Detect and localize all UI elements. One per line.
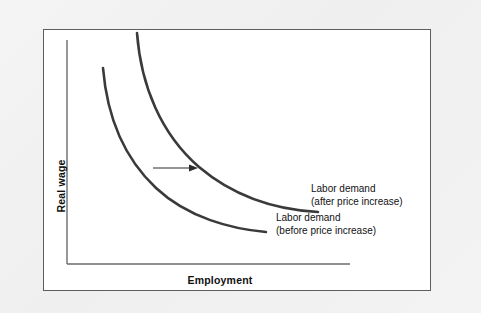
x-axis-title: Employment [187, 274, 252, 286]
curve-label-before-line1: Labor demand [276, 212, 341, 223]
y-axis-title: Real wage [55, 159, 67, 212]
figure-frame: Real wage Employment Labor demand (after… [43, 29, 431, 291]
shift-arrow-icon [153, 165, 198, 172]
y-axis-title-wrapper: Real wage [50, 126, 72, 246]
curve-labor-demand-after [137, 33, 318, 212]
curve-label-after-line2: (after price increase) [311, 196, 403, 209]
chart-plot-area [44, 30, 430, 290]
x-axis-title-wrapper: Employment [67, 270, 373, 288]
curve-label-after-line1: Labor demand [311, 183, 376, 194]
curve-label-after-price-increase: Labor demand (after price increase) [311, 183, 403, 208]
curve-labor-demand-before [103, 68, 266, 232]
page-background: Real wage Employment Labor demand (after… [0, 0, 481, 313]
curve-label-before-line2: (before price increase) [276, 225, 376, 238]
curve-label-before-price-increase: Labor demand (before price increase) [276, 212, 376, 237]
